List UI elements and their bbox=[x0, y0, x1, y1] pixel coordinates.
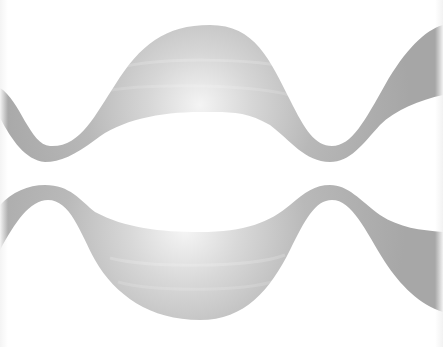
right-edge-fade bbox=[435, 0, 443, 347]
wave-bands-svg bbox=[0, 0, 443, 347]
bottom-wave-band bbox=[0, 185, 443, 320]
left-edge-fade bbox=[0, 0, 8, 347]
top-wave-band bbox=[0, 25, 443, 162]
abstract-wave-graphic bbox=[0, 0, 443, 347]
